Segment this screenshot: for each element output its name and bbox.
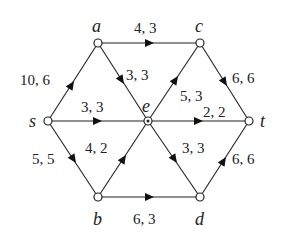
arrow-icon xyxy=(145,193,154,201)
edge-label-e-c: 5, 3 xyxy=(180,88,203,104)
arrow-icon xyxy=(218,155,230,167)
edge-label-s-a: 10, 6 xyxy=(20,72,51,88)
arrow-icon xyxy=(68,153,80,165)
edge-label-d-t: 6, 6 xyxy=(232,151,255,167)
node-b xyxy=(94,193,102,201)
node-label-t: t xyxy=(260,111,266,131)
arrow-icon xyxy=(169,153,181,165)
edge-label-b-d: 6, 3 xyxy=(133,211,156,227)
node-label-c: c xyxy=(195,16,203,36)
node-label-d: d xyxy=(195,209,205,229)
node-s xyxy=(44,117,52,125)
arrow-icon xyxy=(194,117,203,125)
edge-label-a-e: 3, 3 xyxy=(126,67,149,83)
edge-label-a-c: 4, 3 xyxy=(134,20,157,36)
node-a xyxy=(94,39,102,47)
edge-labels: 10, 6 4, 3 3, 3 3, 3 5, 3 6, 6 2, 2 5, 5… xyxy=(20,20,255,227)
node-d xyxy=(196,193,204,201)
edge-label-s-e: 3, 3 xyxy=(81,99,104,115)
edge-label-c-t: 6, 6 xyxy=(232,70,255,86)
edge-label-e-d: 3, 3 xyxy=(182,140,205,156)
flow-network-diagram: 10, 6 4, 3 3, 3 3, 3 5, 3 6, 6 2, 2 5, 5… xyxy=(0,0,281,242)
nodes xyxy=(44,39,253,201)
edge-label-b-e: 4, 2 xyxy=(85,140,108,156)
node-label-b: b xyxy=(93,209,102,229)
arrow-icon xyxy=(219,76,231,88)
edge-label-s-b: 5, 5 xyxy=(32,151,55,167)
edge-label-e-t: 2, 2 xyxy=(203,104,226,120)
arrow-icon xyxy=(93,117,102,125)
node-c xyxy=(196,39,204,47)
arrow-icon xyxy=(118,153,130,165)
node-label-e: e xyxy=(142,96,150,116)
node-t xyxy=(245,117,253,125)
node-label-a: a xyxy=(92,16,101,36)
node-label-s: s xyxy=(29,111,36,131)
arrow-icon xyxy=(145,39,154,47)
node-e-center-dot xyxy=(147,120,150,123)
arrow-icon xyxy=(66,79,78,91)
arrow-icon xyxy=(170,74,182,86)
